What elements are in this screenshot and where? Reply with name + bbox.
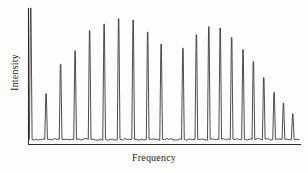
x-axis-label: Frequency [0,152,308,163]
y-axis-label-container: Intensity [2,0,26,145]
spectrum-figure: Intensity Frequency [0,0,308,173]
y-axis-label: Intensity [9,54,20,91]
spectrum-trace-group [29,8,299,140]
axes-group [28,8,301,145]
spectrum-trace [29,8,299,140]
spectrum-plot [0,0,308,173]
